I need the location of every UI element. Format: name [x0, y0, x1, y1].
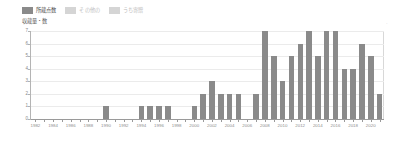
bar-slot[interactable] — [278, 31, 287, 119]
bar-slot[interactable] — [93, 31, 102, 119]
bar-slot[interactable] — [269, 31, 278, 119]
x-tick-mark — [185, 119, 186, 122]
chart-legend: 所蔵点数その他のうち寄贈 — [22, 6, 143, 15]
bar-slot[interactable] — [40, 31, 49, 119]
bar-slot[interactable] — [190, 31, 199, 119]
bar[interactable] — [147, 106, 152, 119]
bar[interactable] — [262, 31, 267, 119]
x-tick-label: 1998 — [172, 123, 182, 129]
bar-slot[interactable] — [305, 31, 314, 119]
bar-slot[interactable] — [102, 31, 111, 119]
bar-slot[interactable] — [225, 31, 234, 119]
bar-slot[interactable] — [49, 31, 58, 119]
legend-item-2[interactable]: うち寄贈 — [109, 6, 143, 15]
x-tick-mark — [256, 119, 257, 122]
bar[interactable] — [377, 94, 382, 119]
bar-slot[interactable] — [199, 31, 208, 119]
x-tick-mark — [371, 119, 372, 122]
bar-slot[interactable] — [243, 31, 252, 119]
bar[interactable] — [271, 56, 276, 119]
plot-area: 01234567 — [31, 31, 384, 119]
x-tick-mark — [132, 119, 133, 122]
x-tick-mark — [274, 119, 275, 122]
x-tick-mark — [291, 119, 292, 122]
x-tick-label: 1994 — [136, 123, 146, 129]
bar-slot[interactable] — [110, 31, 119, 119]
bar[interactable] — [298, 44, 303, 119]
bar-slot[interactable] — [252, 31, 261, 119]
bar[interactable] — [209, 81, 214, 119]
bar-slot[interactable] — [31, 31, 40, 119]
legend-item-0[interactable]: 所蔵点数 — [22, 6, 56, 15]
x-tick-label: 1992 — [119, 123, 129, 129]
bar[interactable] — [306, 31, 311, 119]
corner-marker: · — [386, 22, 389, 25]
bar-slot[interactable] — [340, 31, 349, 119]
bar[interactable] — [350, 69, 355, 119]
y-tick-label: 3 — [25, 79, 28, 84]
bar[interactable] — [227, 94, 232, 119]
bar-slot[interactable] — [128, 31, 137, 119]
x-tick-mark — [247, 119, 248, 122]
y-tick-label: 5 — [25, 54, 28, 59]
bar-slot[interactable] — [366, 31, 375, 119]
bar[interactable] — [139, 106, 144, 119]
bar[interactable] — [156, 106, 161, 119]
x-tick-mark — [115, 119, 116, 122]
x-tick-mark — [283, 119, 284, 122]
bar-slot[interactable] — [287, 31, 296, 119]
x-tick-label: 1996 — [154, 123, 164, 129]
x-tick-mark — [106, 119, 107, 122]
bar-slot[interactable] — [163, 31, 172, 119]
bar-slot[interactable] — [137, 31, 146, 119]
bar-slot[interactable] — [155, 31, 164, 119]
bar-slot[interactable] — [314, 31, 323, 119]
x-tick-label: 1984 — [48, 123, 58, 129]
bar[interactable] — [103, 106, 108, 119]
x-tick-label: 2006 — [242, 123, 252, 129]
bar-slot[interactable] — [119, 31, 128, 119]
x-tick-mark — [80, 119, 81, 122]
x-tick-mark — [62, 119, 63, 122]
bar[interactable] — [333, 31, 338, 119]
x-tick-mark — [344, 119, 345, 122]
bar[interactable] — [280, 81, 285, 119]
bar[interactable] — [253, 94, 258, 119]
bar-slot[interactable] — [322, 31, 331, 119]
bar[interactable] — [324, 31, 329, 119]
bar[interactable] — [342, 69, 347, 119]
bar-slot[interactable] — [172, 31, 181, 119]
bar[interactable] — [359, 44, 364, 119]
bar-slot[interactable] — [146, 31, 155, 119]
x-tick-mark — [150, 119, 151, 122]
bar[interactable] — [368, 56, 373, 119]
x-tick-label: 2012 — [295, 123, 305, 129]
bar[interactable] — [165, 106, 170, 119]
x-tick-mark — [230, 119, 231, 122]
bar-slot[interactable] — [296, 31, 305, 119]
x-tick-mark — [88, 119, 89, 122]
bar-slot[interactable] — [66, 31, 75, 119]
bar-slot[interactable] — [375, 31, 384, 119]
bar-slot[interactable] — [84, 31, 93, 119]
bar[interactable] — [192, 106, 197, 119]
bar-slot[interactable] — [331, 31, 340, 119]
bar-slot[interactable] — [261, 31, 270, 119]
bar-slot[interactable] — [349, 31, 358, 119]
bar-slot[interactable] — [208, 31, 217, 119]
legend-item-1[interactable]: その他の — [65, 6, 99, 15]
bar-slot[interactable] — [75, 31, 84, 119]
bar-slot[interactable] — [216, 31, 225, 119]
bar[interactable] — [315, 56, 320, 119]
bar[interactable] — [218, 94, 223, 119]
bar[interactable] — [200, 94, 205, 119]
bar-slot[interactable] — [181, 31, 190, 119]
bar-slot[interactable] — [358, 31, 367, 119]
bar-slot[interactable] — [234, 31, 243, 119]
x-tick-label: 1986 — [66, 123, 76, 129]
bar-chart: 所蔵点数その他のうち寄贈 収蔵量・数 · 01234567 1982198419… — [0, 0, 401, 142]
bar[interactable] — [236, 94, 241, 119]
bar[interactable] — [289, 56, 294, 119]
bar-slot[interactable] — [57, 31, 66, 119]
x-tick-mark — [71, 119, 72, 122]
